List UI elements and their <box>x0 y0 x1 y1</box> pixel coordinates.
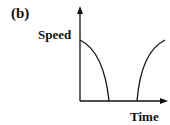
x-axis <box>80 98 168 104</box>
y-axis <box>77 6 83 101</box>
accelerating-curve <box>137 40 165 101</box>
decelerating-curve <box>80 40 109 101</box>
y-axis-arrow-icon <box>77 6 83 14</box>
speed-time-graph <box>0 0 170 125</box>
x-axis-arrow-icon <box>160 98 168 104</box>
